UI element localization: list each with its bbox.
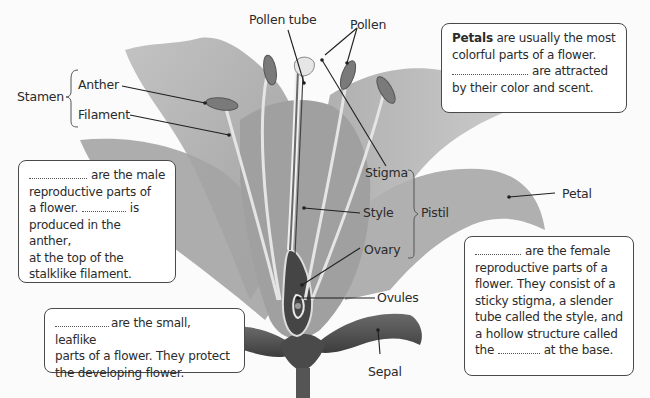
pistils-info-box: are the female reproductive parts of a f…	[464, 236, 634, 376]
sepals-blank[interactable]	[55, 315, 109, 327]
stamens-info-box: are the male reproductive parts of a flo…	[18, 160, 176, 283]
pistils-line2: reproductive parts of a	[475, 260, 624, 277]
label-ovary: Ovary	[364, 243, 400, 257]
pistils-line5: tube called the style, and	[475, 309, 624, 326]
stem	[296, 368, 310, 398]
pistils-blank-1[interactable]	[475, 243, 521, 255]
sepals-line3: the developing flower.	[55, 365, 235, 382]
label-sepal: Sepal	[368, 365, 402, 379]
label-stamen: Stamen	[17, 90, 64, 104]
label-ovules: Ovules	[377, 291, 419, 305]
pistils-line7a: the	[475, 343, 494, 357]
pistils-blank-2[interactable]	[498, 342, 540, 354]
petals-line3: are attracted	[532, 64, 608, 78]
stamens-line1: are the male	[91, 168, 165, 182]
stamens-line2: reproductive parts of	[29, 184, 166, 201]
petals-bold-word: Petals	[452, 31, 493, 45]
stamens-blank-2[interactable]	[82, 200, 126, 212]
sepals-info-box: are the small, leaflike parts of a flowe…	[44, 308, 245, 373]
label-pollen: Pollen	[350, 18, 386, 32]
stamens-line6: stalklike filament.	[29, 266, 166, 283]
receptacle	[280, 334, 325, 372]
stamens-blank-1[interactable]	[29, 167, 87, 179]
pistils-line3: flower. They consist of a	[475, 276, 624, 293]
pistils-line7b: at the base.	[544, 343, 613, 357]
pistils-line1: are the female	[525, 244, 610, 258]
label-pollen-tube: Pollen tube	[249, 13, 317, 27]
stamens-line3a: a flower.	[29, 201, 78, 215]
label-petal: Petal	[562, 187, 592, 201]
petals-line2: colorful parts of a flower.	[452, 47, 617, 64]
label-pistil: Pistil	[421, 206, 449, 220]
stamen-brace	[66, 70, 78, 127]
petals-line4: by their color and scent.	[452, 80, 617, 97]
stamens-line3b: is	[130, 201, 139, 215]
stamens-line5: at the top of the	[29, 250, 166, 267]
label-style: Style	[363, 206, 393, 220]
stamens-line4: produced in the anther,	[29, 217, 166, 250]
petals-blank[interactable]	[452, 63, 528, 75]
label-filament: Filament	[78, 108, 130, 122]
pistils-line4: sticky stigma, a slender	[475, 293, 624, 310]
label-stigma: Stigma	[365, 166, 408, 180]
sepals-line2: parts of a flower. They protect	[55, 348, 235, 365]
petals-info-box: Petals are usually the most colorful par…	[441, 23, 627, 113]
petals-line1: are usually the most	[493, 31, 616, 45]
pistils-line6: a hollow structure called	[475, 326, 624, 343]
label-anther: Anther	[78, 78, 119, 92]
